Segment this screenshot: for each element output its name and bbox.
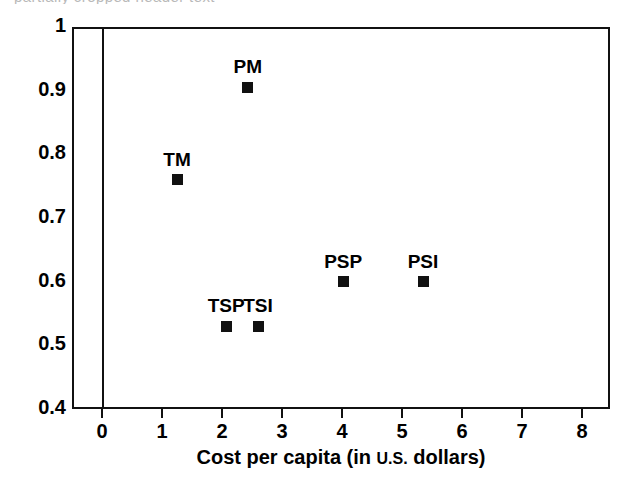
data-point-pm (242, 82, 253, 93)
x-tick-label-2: 2 (202, 420, 242, 443)
data-point-tsp (221, 321, 232, 332)
x-tick-4 (341, 409, 343, 418)
x-tick-7 (521, 409, 523, 418)
data-point-label-psp: PSP (298, 251, 388, 273)
x-axis-title-smallcaps: U.S. (377, 450, 408, 467)
cropped-title-text: partially cropped header text (0, 0, 627, 4)
x-tick-label-4: 4 (322, 420, 362, 443)
scatter-plot-figure: partially cropped header text 0.40.50.60… (0, 0, 627, 478)
x-axis-title: Cost per capita (in U.S. dollars) (72, 446, 610, 469)
data-point-tm (172, 174, 183, 185)
data-point-label-tm: TM (132, 149, 222, 171)
x-tick-label-6: 6 (442, 420, 482, 443)
y-tick-label-0.5: 0.5 (2, 332, 66, 355)
plot-area-frame (72, 27, 610, 409)
data-point-tsi (253, 321, 264, 332)
x-tick-label-7: 7 (502, 420, 542, 443)
x-axis-title-before: Cost per capita (in (197, 446, 377, 468)
data-point-label-pm: PM (203, 56, 293, 78)
y-tick-label-0.6: 0.6 (2, 269, 66, 292)
y-axis-tick-labels: 0.40.50.60.70.80.91 (0, 0, 66, 478)
x-tick-3 (281, 409, 283, 418)
x-tick-5 (401, 409, 403, 418)
x-tick-label-5: 5 (382, 420, 422, 443)
y-tick-label-0.4: 0.4 (2, 396, 66, 419)
x-tick-8 (581, 409, 583, 418)
data-point-label-tsi: TSI (213, 295, 303, 317)
x-tick-0 (101, 409, 103, 418)
x-tick-label-8: 8 (562, 420, 602, 443)
data-point-label-psi: PSI (378, 251, 468, 273)
data-point-psp (338, 276, 349, 287)
x-tick-label-3: 3 (262, 420, 302, 443)
y-tick-label-0.8: 0.8 (2, 141, 66, 164)
x-zero-reference-line (102, 27, 104, 409)
data-point-psi (418, 276, 429, 287)
y-tick-label-0.9: 0.9 (2, 78, 66, 101)
x-tick-label-1: 1 (142, 420, 182, 443)
x-tick-1 (161, 409, 163, 418)
x-tick-label-0: 0 (82, 420, 122, 443)
y-tick-label-0.7: 0.7 (2, 205, 66, 228)
x-tick-6 (461, 409, 463, 418)
y-tick-label-1: 1 (2, 14, 66, 37)
x-axis-title-after: dollars) (408, 446, 486, 468)
x-tick-2 (221, 409, 223, 418)
